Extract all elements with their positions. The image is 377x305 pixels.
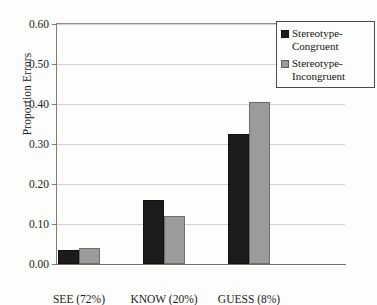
- y-axis-tick-label: 0.00: [7, 258, 49, 270]
- y-axis-tick-label: 0.40: [7, 98, 49, 110]
- y-axis-tick: [52, 24, 57, 25]
- legend-item-congruent: Stereotype-Congruent: [281, 27, 369, 52]
- y-axis-tick: [52, 104, 57, 105]
- bar-congruent: [143, 200, 164, 264]
- y-axis-tick: [52, 264, 57, 265]
- legend-label-incongruent: Stereotype-Incongruent: [292, 57, 369, 82]
- y-axis-tick: [52, 184, 57, 185]
- x-axis-tick-label: GUESS (8%): [218, 293, 280, 305]
- x-axis-line: [56, 264, 346, 265]
- legend-swatch-congruent-icon: [281, 30, 289, 38]
- gridline: [57, 144, 345, 145]
- bar-incongruent: [79, 248, 100, 264]
- chart-legend: Stereotype-Congruent Stereotype-Incongru…: [276, 21, 375, 88]
- gridline: [57, 184, 345, 185]
- y-axis-tick-label: 0.20: [7, 178, 49, 190]
- bar-incongruent: [249, 102, 270, 264]
- legend-item-incongruent: Stereotype-Incongruent: [281, 57, 369, 82]
- y-axis-tick-label: 0.30: [7, 138, 49, 150]
- bar-incongruent: [164, 216, 185, 264]
- x-axis-tick-label: KNOW (20%): [130, 293, 197, 305]
- y-axis-tick-label: 0.10: [7, 218, 49, 230]
- bar-congruent: [58, 250, 79, 264]
- gridline: [57, 224, 345, 225]
- x-axis-tick-label: SEE (72%): [53, 293, 105, 305]
- y-axis-tick-label: 0.50: [7, 58, 49, 70]
- y-axis-tick: [52, 224, 57, 225]
- bar-congruent: [228, 134, 249, 264]
- y-axis-tick: [52, 64, 57, 65]
- y-axis-tick-label: 0.60: [7, 18, 49, 30]
- y-axis-tick: [52, 144, 57, 145]
- legend-swatch-incongruent-icon: [281, 60, 289, 68]
- legend-label-congruent: Stereotype-Congruent: [292, 27, 369, 52]
- gridline: [57, 104, 345, 105]
